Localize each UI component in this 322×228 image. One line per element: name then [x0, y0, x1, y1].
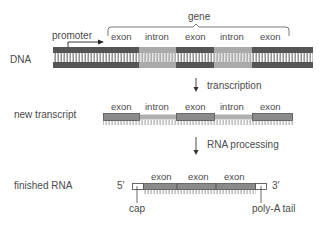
- rna-processing-arrow-icon: [194, 137, 199, 155]
- dna-strand: [53, 47, 313, 68]
- cap-box: [133, 184, 144, 190]
- transcription-arrow-icon: [194, 78, 199, 92]
- gene-expression-diagram: [0, 0, 322, 228]
- new-transcript-strand: [103, 114, 293, 126]
- gene-bracket: [108, 24, 289, 36]
- promoter-arrow-icon: [68, 40, 104, 48]
- finished-rna-strand: [133, 184, 267, 204]
